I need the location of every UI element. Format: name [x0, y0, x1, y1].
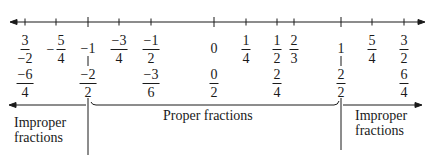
- left-region-arrow-icon: [9, 103, 16, 108]
- tick-label-fraction: 32: [400, 34, 409, 66]
- denominator: 4: [243, 50, 250, 66]
- equivalent-fraction: −36: [143, 68, 160, 100]
- equivalent-fraction: 22: [337, 68, 346, 100]
- proper-fractions-label: Proper fractions: [163, 108, 253, 123]
- tick-label-fraction: 54: [368, 34, 377, 66]
- numerator: 1: [273, 34, 282, 50]
- tick-label-fraction: 23: [290, 34, 299, 66]
- tick-label-fraction: −34: [111, 34, 128, 66]
- middle-region-label: Proper fractions: [163, 108, 253, 123]
- tick-label-fraction: −54: [47, 34, 66, 66]
- numerator: 2: [290, 34, 299, 50]
- denominator: −2: [18, 50, 33, 66]
- tick-label-whole: 1: [338, 42, 345, 56]
- main-axis: [10, 17, 425, 27]
- denominator: 2: [148, 50, 155, 66]
- right-region-line1: Improper: [355, 108, 407, 123]
- right-region-label: Improper fractions: [355, 108, 407, 138]
- numerator: 3: [400, 34, 409, 50]
- denominator: 2: [401, 50, 408, 66]
- numerator: 5: [368, 34, 377, 50]
- denominator: 2: [211, 84, 218, 100]
- numerator: 3: [21, 34, 30, 50]
- denominator: 3: [291, 50, 298, 66]
- denominator: 2: [85, 84, 92, 100]
- equivalent-fraction: −22: [80, 68, 97, 100]
- left-arrow-icon: [10, 20, 17, 25]
- numerator: −6: [17, 68, 34, 84]
- right-region-arrow-icon: [415, 103, 422, 108]
- numerator: −1: [143, 34, 160, 50]
- denominator: 4: [369, 50, 376, 66]
- tick-label-fraction: 14: [242, 34, 251, 66]
- numerator: 6: [400, 68, 409, 84]
- denominator: 2: [338, 84, 345, 100]
- tick-label-whole: 0: [211, 42, 218, 56]
- numerator: −3: [143, 68, 160, 84]
- tick-label-whole: −1: [81, 42, 96, 56]
- right-arrow-icon: [418, 20, 425, 25]
- left-region-line1: Improper: [14, 115, 66, 130]
- numerator: 2: [337, 68, 346, 84]
- numerator: −3: [111, 34, 128, 50]
- tick-label-fraction: −12: [143, 34, 160, 66]
- right-region-line2: fractions: [355, 123, 407, 138]
- denominator: 4: [401, 84, 408, 100]
- denominator: 2: [274, 50, 281, 66]
- proper-fractions-brace: [91, 101, 339, 105]
- equivalent-fraction: −64: [17, 68, 34, 100]
- numerator: 5: [56, 34, 65, 50]
- denominator: 6: [148, 84, 155, 100]
- tick-label-fraction: 12: [273, 34, 282, 66]
- numerator: −2: [80, 68, 97, 84]
- equivalent-fraction: 24: [273, 68, 282, 100]
- denominator: 4: [57, 50, 64, 66]
- numerator: 0: [210, 68, 219, 84]
- numerator: 1: [242, 34, 251, 50]
- number-line-diagram: 3−2−54−1−34−12014122315432 −64−22−360224…: [0, 0, 429, 162]
- tick-label-fraction: 3−2: [18, 34, 33, 66]
- denominator: 4: [22, 84, 29, 100]
- region-markers: [9, 101, 422, 108]
- equivalent-fraction: 02: [210, 68, 219, 100]
- denominator: 4: [274, 84, 281, 100]
- left-region-line2: fractions: [14, 130, 66, 145]
- equivalent-fraction: 64: [400, 68, 409, 100]
- fraction-sign: −: [47, 43, 55, 57]
- denominator: 4: [116, 50, 123, 66]
- left-region-label: Improper fractions: [14, 115, 66, 145]
- numerator: 2: [273, 68, 282, 84]
